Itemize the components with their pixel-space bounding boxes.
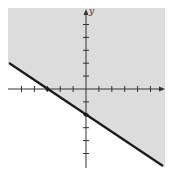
- x-intercept-point: [45, 87, 49, 91]
- y-intercept-point: [84, 113, 88, 117]
- y-axis-label: y: [88, 6, 95, 16]
- inequality-plot: y: [0, 0, 173, 176]
